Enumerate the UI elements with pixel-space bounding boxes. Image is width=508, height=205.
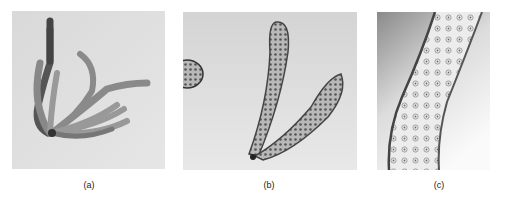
panel-a-image [12,11,165,169]
panel-b-label: (b) [249,180,289,190]
micrograph-c [377,12,490,170]
micrograph-a [12,11,165,169]
panel-c-image [377,12,490,170]
panel-b-image [183,12,357,170]
panel-c-label: (c) [419,180,459,190]
micrograph-b [183,12,357,170]
panel-a-label: (a) [69,180,109,190]
